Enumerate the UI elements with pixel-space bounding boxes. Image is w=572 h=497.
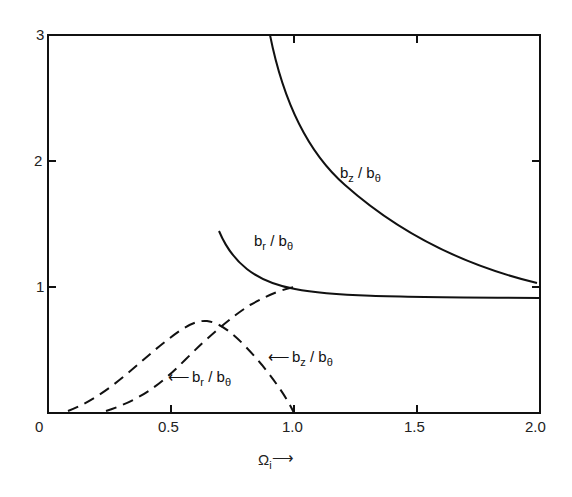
y-axis-ticks xyxy=(48,161,540,287)
svg-text:3: 3 xyxy=(36,26,44,43)
label-solid-bz-btheta: bz / bθ xyxy=(340,164,381,184)
curve-bz-btheta-solid xyxy=(270,35,537,283)
svg-text:2: 2 xyxy=(34,152,42,169)
curve-br-btheta-dashed xyxy=(106,287,295,411)
svg-text:0.5: 0.5 xyxy=(158,418,179,435)
svg-text:1.5: 1.5 xyxy=(404,418,425,435)
x-axis-label: Ωi⟶ xyxy=(258,449,294,471)
svg-text:1.0: 1.0 xyxy=(282,418,303,435)
label-solid-br-btheta: br / bθ xyxy=(254,232,293,252)
y-tick-labels: 3 2 1 xyxy=(34,26,44,295)
chart: 3 2 1 0 0.5 1.0 1.5 2.0 Ωi⟶ bz / bθ br /… xyxy=(0,0,572,497)
svg-text:0: 0 xyxy=(35,418,43,435)
curve-bz-btheta-dashed xyxy=(68,321,294,413)
svg-text:1: 1 xyxy=(36,278,44,295)
label-dashed-bz-btheta: ⟵bz / bθ xyxy=(268,348,333,368)
svg-text:2.0: 2.0 xyxy=(525,418,546,435)
x-tick-labels: 0 0.5 1.0 1.5 2.0 xyxy=(35,418,546,435)
label-dashed-br-btheta: ⟵br / bθ xyxy=(168,368,231,388)
